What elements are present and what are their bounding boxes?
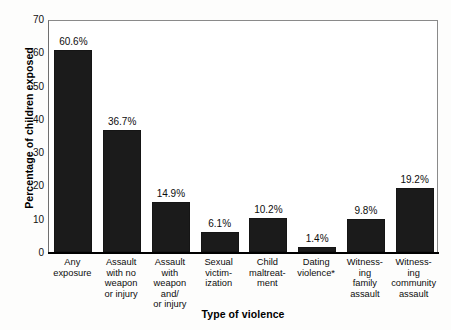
category-label: Assaultwithweaponand/or injury — [146, 257, 195, 310]
bar-value-label: 36.7% — [108, 117, 136, 127]
category-label: Childmaltreat-ment — [243, 257, 292, 289]
bar[interactable] — [347, 219, 385, 252]
category-label: Datingviolence* — [292, 257, 341, 278]
category-label: Sexualvictim-ization — [194, 257, 243, 289]
y-tick-0: 0 — [4, 248, 44, 258]
y-tick-70: 70 — [4, 15, 44, 25]
bar-slot: 36.7% — [103, 19, 141, 252]
bar[interactable] — [249, 218, 287, 252]
category-label: Assaultwith noweaponor injury — [97, 257, 146, 299]
bar[interactable] — [103, 130, 141, 252]
bar[interactable] — [201, 232, 239, 252]
y-tick-50: 50 — [4, 82, 44, 92]
bar[interactable] — [396, 188, 434, 252]
bar-value-label: 10.2% — [254, 205, 282, 215]
y-tick-60: 60 — [4, 48, 44, 58]
bar-value-label: 14.9% — [157, 189, 185, 199]
bar[interactable] — [54, 50, 92, 252]
x-axis-title: Type of violence — [48, 308, 438, 320]
bar-slot: 9.8% — [347, 19, 385, 252]
category-label: Anyexposure — [48, 257, 97, 278]
bar-value-label: 1.4% — [306, 234, 329, 244]
bar-value-label: 60.6% — [59, 37, 87, 47]
y-tick-20: 20 — [4, 181, 44, 191]
bar-slot: 1.4% — [298, 19, 336, 252]
bar-slot: 6.1% — [201, 19, 239, 252]
x-axis-category-labels: AnyexposureAssaultwith noweaponor injury… — [48, 257, 438, 307]
bar-slot: 60.6% — [54, 19, 92, 252]
bar-slot: 19.2% — [396, 19, 434, 252]
bar-slot: 14.9% — [152, 19, 190, 252]
bar-chart-figure: Percentage of children exposed 706050403… — [0, 0, 451, 330]
category-label: Witness-ingcommunityassault — [389, 257, 438, 299]
category-label: Witness-ingfamilyassault — [341, 257, 390, 299]
bar-value-label: 6.1% — [208, 219, 231, 229]
y-axis-tick-labels: 706050403020100 — [0, 0, 44, 330]
bar[interactable] — [152, 202, 190, 252]
y-tick-40: 40 — [4, 115, 44, 125]
bar-slot: 10.2% — [249, 19, 287, 252]
y-tick-30: 30 — [4, 148, 44, 158]
bar-value-label: 9.8% — [354, 206, 377, 216]
plot-area: 60.6%36.7%14.9%6.1%10.2%1.4%9.8%19.2% — [48, 20, 438, 253]
x-axis-baseline — [48, 252, 439, 254]
y-tick-10: 10 — [4, 215, 44, 225]
bar-value-label: 19.2% — [400, 175, 428, 185]
